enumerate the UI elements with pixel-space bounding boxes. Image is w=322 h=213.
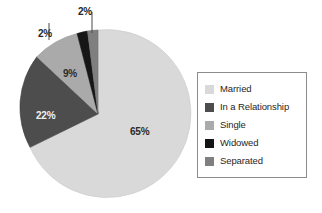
legend-label-in-a-relationship: In a Relationship — [220, 102, 289, 112]
pie-chart-figure: 65% 22% 9% 2% 2% Married In a Relationsh… — [0, 0, 322, 213]
pie-value-label-married: 65% — [130, 127, 149, 137]
legend-item-married[interactable]: Married — [205, 80, 300, 98]
legend-item-single[interactable]: Single — [205, 116, 300, 134]
legend-label-widowed: Widowed — [220, 138, 258, 148]
legend-swatch-icon-separated — [205, 157, 214, 166]
legend-label-single: Single — [220, 120, 246, 130]
pie-value-label-single: 9% — [63, 69, 77, 79]
pie-plot-area: 65% 22% 9% 2% 2% — [0, 0, 196, 213]
legend-label-married: Married — [220, 84, 252, 94]
legend-item-widowed[interactable]: Widowed — [205, 134, 300, 152]
legend-swatch-icon-single — [205, 121, 214, 130]
pie-value-label-widowed: 2% — [38, 29, 52, 39]
legend-label-separated: Separated — [220, 156, 263, 166]
legend-swatch-icon-in-a-relationship — [205, 103, 214, 112]
pie-value-label-in-a-relationship: 22% — [36, 111, 55, 121]
pie-svg — [0, 0, 196, 213]
chart-legend: Married In a Relationship Single Widowed… — [197, 72, 307, 178]
legend-item-in-a-relationship[interactable]: In a Relationship — [205, 98, 300, 116]
pie-value-label-separated: 2% — [78, 7, 92, 17]
legend-swatch-icon-widowed — [205, 139, 214, 148]
legend-item-separated[interactable]: Separated — [205, 152, 300, 170]
legend-swatch-icon-married — [205, 85, 214, 94]
